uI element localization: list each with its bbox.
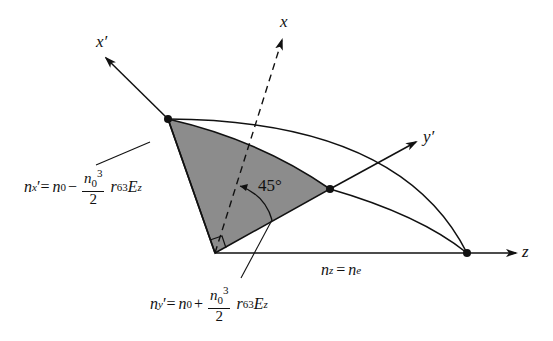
- y-prime-label: y′: [423, 127, 434, 147]
- x-prime-label: x′: [96, 32, 107, 52]
- y-prime-axis: [330, 142, 416, 189]
- equation-nx-prime: nx′= n0 − n032 r63Ez: [24, 166, 142, 207]
- equation-ny-prime: ny′= n0 + n032 r63Ez: [150, 283, 268, 324]
- point-x-prime: [164, 115, 172, 123]
- x-label: x: [280, 12, 288, 32]
- point-y-prime: [326, 185, 334, 193]
- angle-label: 45°: [258, 176, 282, 196]
- leader-line-nx: [96, 142, 150, 165]
- z-label: z: [522, 242, 529, 262]
- equation-nz: nz = ne: [321, 261, 361, 279]
- point-z: [463, 249, 471, 257]
- x-prime-axis: [106, 58, 168, 119]
